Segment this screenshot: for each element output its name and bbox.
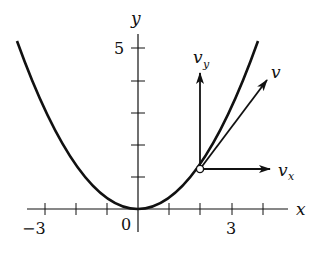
point-marker — [196, 165, 203, 172]
parabola-velocity-diagram: x −3 0 3 y 5 v y v v x — [0, 0, 319, 256]
svg-text:v: v — [193, 47, 203, 67]
vy-label: v y — [193, 47, 210, 71]
velocity-vectors — [200, 73, 270, 169]
x-axis: x −3 0 3 — [22, 199, 306, 238]
x-axis-label: x — [296, 199, 306, 219]
x-tick-label-0: 0 — [121, 215, 131, 234]
y-tick-label-5: 5 — [114, 39, 124, 58]
x-tick-label-3: 3 — [226, 219, 236, 238]
v-arrow — [200, 80, 267, 169]
y-axis-label: y — [130, 8, 141, 28]
svg-text:x: x — [288, 170, 295, 183]
vx-label: v x — [278, 160, 295, 183]
svg-text:v: v — [271, 62, 281, 82]
svg-text:v: v — [278, 160, 288, 180]
v-label: v — [271, 62, 281, 82]
y-axis: y 5 — [114, 8, 145, 232]
x-tick-label-neg3: −3 — [22, 219, 46, 238]
svg-text:y: y — [202, 58, 210, 71]
